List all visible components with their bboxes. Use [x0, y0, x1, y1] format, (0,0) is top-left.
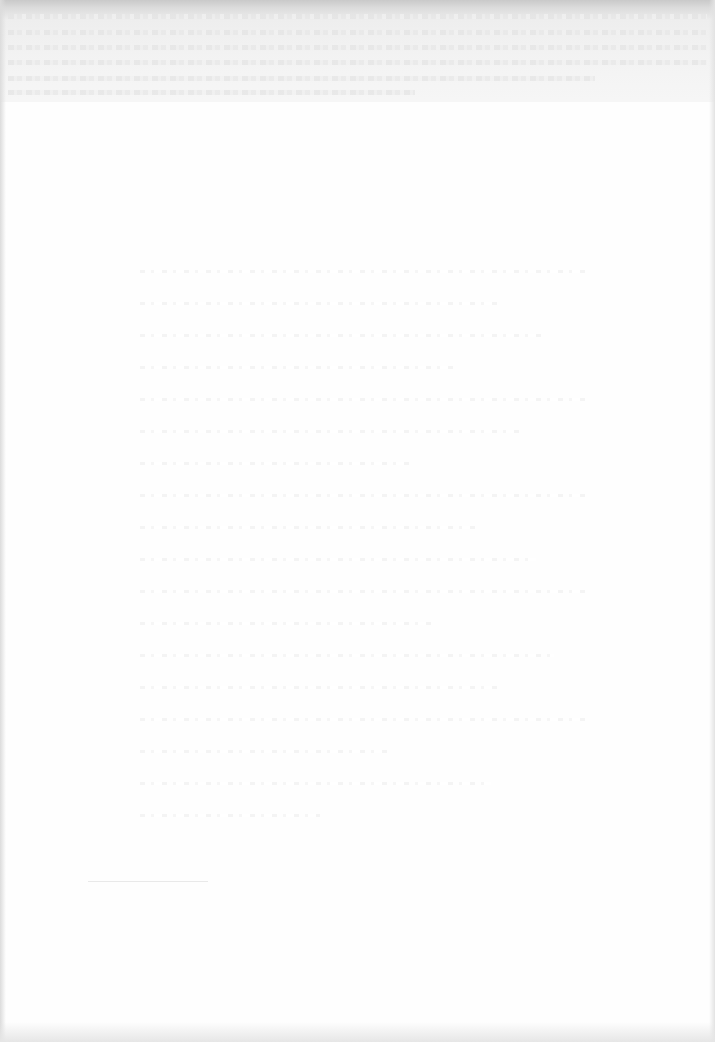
bleed-through-text-line	[8, 90, 415, 95]
text-line	[140, 718, 590, 721]
bleed-through-text-line	[8, 60, 707, 65]
text-line	[140, 398, 590, 401]
text-line	[140, 558, 536, 561]
scanned-document-page	[0, 0, 715, 1042]
scan-shadow-bottom	[0, 1022, 715, 1042]
text-line	[140, 622, 433, 625]
scan-shadow-top-band	[0, 0, 715, 102]
text-line	[140, 750, 388, 753]
text-line	[140, 270, 590, 273]
text-line	[140, 782, 491, 785]
text-line	[140, 302, 500, 305]
text-line	[140, 590, 590, 593]
text-line	[140, 494, 590, 497]
text-line	[140, 430, 523, 433]
scan-edge-right	[709, 0, 715, 1042]
faded-body-text	[140, 270, 590, 846]
text-line	[140, 334, 545, 337]
scan-edge-left	[0, 0, 6, 1042]
footnote-divider	[88, 881, 208, 882]
bleed-through-text-line	[8, 76, 595, 81]
bleed-through-text-line	[8, 30, 707, 35]
bleed-through-text-line	[8, 14, 707, 19]
text-line	[140, 526, 478, 529]
text-line	[140, 366, 455, 369]
text-line	[140, 654, 554, 657]
bleed-through-text-line	[8, 45, 707, 50]
text-line	[140, 462, 410, 465]
text-line	[140, 814, 320, 817]
text-line	[140, 686, 500, 689]
